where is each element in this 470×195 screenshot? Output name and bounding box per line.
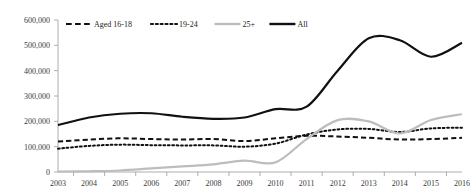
y-tick-group: 0100,000200,000300,000400,000500,000600,… [24, 16, 58, 177]
x-tick-label: 2015 [423, 179, 439, 188]
y-tick-label: 300,000 [24, 92, 50, 101]
x-tick-label: 2006 [143, 179, 159, 188]
legend-label-25-: 25+ [243, 20, 256, 29]
y-tick-label: 200,000 [24, 117, 50, 126]
x-tick-label: 2004 [81, 179, 97, 188]
x-tick-label: 2010 [268, 179, 284, 188]
series-line-aged-16-18 [58, 136, 462, 142]
legend-label-aged-16-18: Aged 16-18 [94, 20, 132, 29]
x-tick-group: 2003200420052006200720082009201020112012… [50, 172, 470, 188]
x-tick-label: 2005 [112, 179, 128, 188]
y-tick-label: 400,000 [24, 67, 50, 76]
series-group [58, 36, 462, 172]
legend-label-all: All [297, 20, 308, 29]
y-tick-label: 100,000 [24, 143, 50, 152]
x-tick-label: 2007 [174, 179, 190, 188]
x-tick-label: 2008 [205, 179, 221, 188]
legend-label-19-24: 19-24 [179, 20, 198, 29]
y-axis: 0100,000200,000300,000400,000500,000600,… [24, 16, 58, 177]
series-line-all [58, 36, 462, 125]
y-tick-label: 500,000 [24, 41, 50, 50]
line-chart: 0100,000200,000300,000400,000500,000600,… [0, 0, 470, 195]
x-tick-label: 2014 [392, 179, 408, 188]
series-line-25- [58, 114, 462, 171]
x-tick-label: 2003 [50, 179, 66, 188]
x-axis: 2003200420052006200720082009201020112012… [50, 172, 470, 188]
x-tick-label: 2009 [236, 179, 252, 188]
y-tick-label: 600,000 [24, 16, 50, 25]
chart-plot-area: 0100,000200,000300,000400,000500,000600,… [0, 0, 470, 195]
y-tick-label: 0 [46, 168, 50, 177]
x-tick-label: 2016 [454, 179, 470, 188]
chart-legend: Aged 16-1819-2425+All [66, 20, 308, 29]
x-tick-label: 2013 [361, 179, 377, 188]
x-tick-label: 2011 [299, 179, 315, 188]
x-tick-label: 2012 [330, 179, 346, 188]
